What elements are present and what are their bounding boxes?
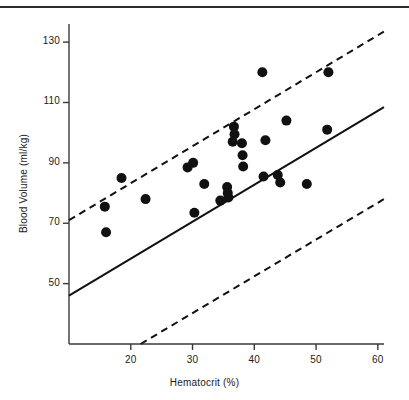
x-tick-label: 60 [358, 354, 398, 365]
figure-container: 507090110130 2030405060 Blood Volume (ml… [0, 0, 409, 400]
data-point [188, 158, 198, 168]
data-point [237, 138, 247, 148]
y-axis-title: Blood Volume (ml/kg) [18, 114, 29, 254]
data-point [223, 193, 233, 203]
data-point [100, 202, 110, 212]
x-tick-label: 50 [296, 354, 336, 365]
x-axis-title: Hematocrit (%) [0, 377, 409, 388]
y-axis-ticks [63, 42, 69, 284]
x-tick-label: 30 [173, 354, 213, 365]
data-point [199, 179, 209, 189]
data-point [302, 179, 312, 189]
data-point [275, 177, 285, 187]
y-tick-label: 110 [22, 95, 60, 106]
data-point [117, 173, 127, 183]
scatter-plot-canvas [0, 0, 409, 400]
data-point [141, 194, 151, 204]
data-point [238, 150, 248, 160]
data-point [189, 208, 199, 218]
data-point [238, 161, 248, 171]
x-tick-label: 20 [111, 354, 151, 365]
data-point [257, 67, 267, 77]
data-point [322, 125, 332, 135]
data-point [260, 135, 270, 145]
data-point [230, 129, 240, 139]
data-point [101, 227, 111, 237]
y-tick-label: 130 [22, 35, 60, 46]
x-tick-label: 40 [234, 354, 274, 365]
data-point [259, 171, 269, 181]
data-point [281, 116, 291, 126]
lower-limit-line [141, 199, 384, 344]
y-tick-label: 50 [22, 277, 60, 288]
data-points [100, 67, 334, 237]
x-axis-ticks [131, 344, 378, 350]
data-point [323, 67, 333, 77]
